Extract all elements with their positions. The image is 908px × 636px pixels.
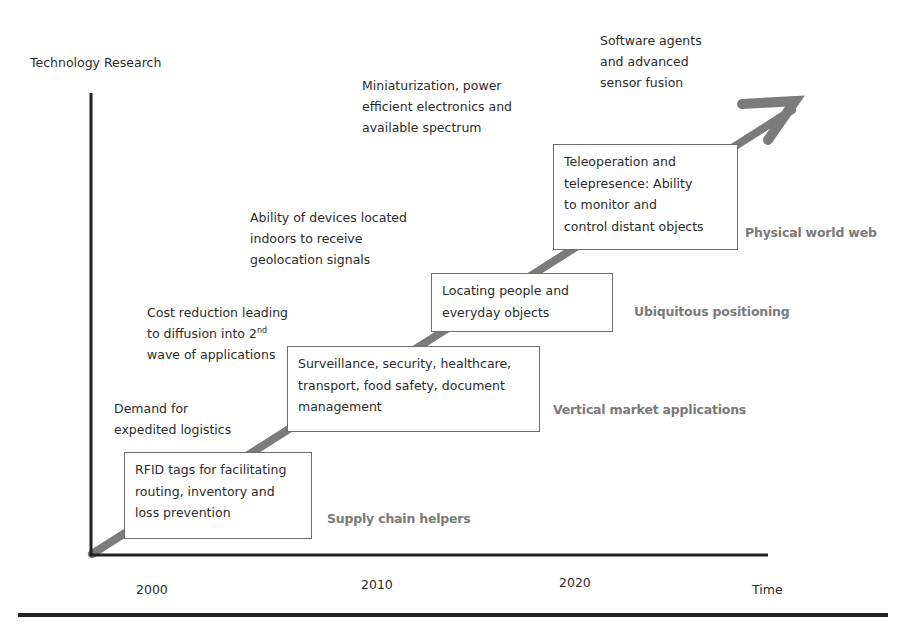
driver-line: and advanced [600, 51, 702, 72]
ordinal-superscript: nd [257, 326, 267, 335]
x-axis-label: Time [752, 582, 783, 597]
stage-physical-world-web: Physical world web [745, 225, 877, 240]
driver-line: wave of applications [147, 344, 288, 365]
x-tick-2010: 2010 [361, 577, 393, 592]
stage-ubiquitous-positioning: Ubiquitous positioning [634, 304, 790, 319]
box-surveillance: Surveillance, security, healthcare, tran… [287, 346, 540, 432]
driver-line-text: to diffusion into 2 [147, 326, 257, 341]
driver-software: Software agents and advanced sensor fusi… [600, 30, 702, 93]
driver-line: Demand for [114, 398, 231, 419]
driver-line: Miniaturization, power [362, 75, 512, 96]
box-line: everyday objects [442, 302, 602, 324]
driver-line: to diffusion into 2nd [147, 323, 288, 344]
driver-line: indoors to receive [250, 228, 407, 249]
box-line: Locating people and [442, 280, 602, 302]
box-line: to monitor and [564, 194, 727, 216]
driver-cost: Cost reduction leading to diffusion into… [147, 302, 288, 365]
box-line: management [298, 396, 529, 418]
box-line: Teleoperation and [564, 151, 727, 173]
driver-line: available spectrum [362, 117, 512, 138]
stage-vertical-market-applications: Vertical market applications [553, 402, 746, 417]
driver-line: efficient electronics and [362, 96, 512, 117]
x-tick-2020: 2020 [559, 575, 591, 590]
y-axis-label: Technology Research [30, 52, 161, 73]
box-locating: Locating people and everyday objects [431, 273, 613, 332]
box-rfid: RFID tags for facilitating routing, inve… [124, 452, 312, 539]
box-line: RFID tags for facilitating [135, 459, 301, 481]
driver-indoor: Ability of devices located indoors to re… [250, 207, 407, 270]
box-line: loss prevention [135, 502, 301, 524]
driver-demand: Demand for expedited logistics [114, 398, 231, 440]
driver-line: geolocation signals [250, 249, 407, 270]
x-tick-2000: 2000 [136, 582, 168, 597]
driver-miniaturization: Miniaturization, power efficient electro… [362, 75, 512, 138]
stage-supply-chain-helpers: Supply chain helpers [327, 511, 471, 526]
driver-line: Ability of devices located [250, 207, 407, 228]
box-line: Surveillance, security, healthcare, [298, 353, 529, 375]
box-teleoperation: Teleoperation and telepresence: Ability … [553, 144, 738, 250]
driver-line: expedited logistics [114, 419, 231, 440]
box-line: control distant objects [564, 216, 727, 238]
driver-line: sensor fusion [600, 72, 702, 93]
box-line: telepresence: Ability [564, 173, 727, 195]
box-line: transport, food safety, document [298, 375, 529, 397]
driver-line: Software agents [600, 30, 702, 51]
driver-line: Cost reduction leading [147, 302, 288, 323]
box-line: routing, inventory and [135, 481, 301, 503]
